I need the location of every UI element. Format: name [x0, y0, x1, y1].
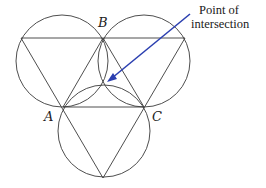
outer-triangle: [21, 38, 185, 178]
circle-bottom: [58, 85, 150, 177]
circle-top-right: [98, 15, 190, 107]
label-a: A: [43, 109, 53, 124]
geometry-diagram: B A C Point of intersection: [0, 0, 266, 188]
label-b: B: [97, 15, 108, 30]
label-c: C: [152, 109, 162, 124]
circle-top-left: [16, 15, 108, 107]
annotation-line2: intersection: [191, 17, 250, 31]
triangle-abc: [63, 38, 144, 107]
pointer-arrow-line: [112, 14, 190, 78]
annotation-line1: Point of: [199, 3, 240, 17]
